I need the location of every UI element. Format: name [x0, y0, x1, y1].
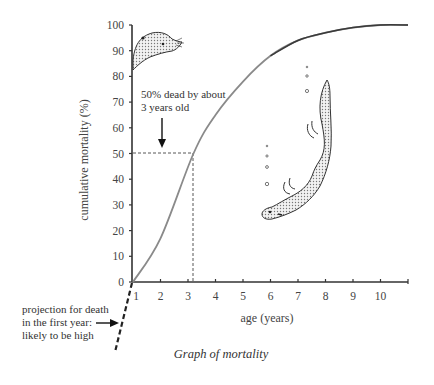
x-tick-label: 10 — [375, 290, 387, 302]
y-tick-label: 50 — [113, 148, 125, 160]
y-tick-label: 100 — [107, 19, 125, 31]
svg-text:50% dead by about: 50% dead by about — [141, 88, 226, 100]
y-tick-label: 60 — [113, 122, 125, 134]
y-tick-label: 80 — [113, 70, 125, 82]
x-tick-label: 2 — [158, 290, 164, 302]
y-tick-label: 90 — [113, 45, 125, 57]
otter-head-icon — [133, 32, 184, 70]
diving-otter-icon — [262, 80, 331, 219]
y-axis-title: cumulative mortality (%) — [77, 99, 91, 220]
x-tick-label: 7 — [295, 290, 301, 302]
arrow-down-icon — [158, 139, 166, 148]
x-tick-label: 1 — [133, 290, 139, 302]
svg-text:likely to be high: likely to be high — [22, 329, 94, 341]
y-tick-label: 0 — [118, 276, 124, 288]
y-tick-label: 20 — [113, 225, 125, 237]
y-tick-label: 70 — [113, 96, 125, 108]
projection-annotation: projection for death in the first year: … — [22, 303, 119, 341]
x-tick-label: 9 — [350, 290, 356, 302]
svg-text:projection for death: projection for death — [22, 303, 109, 315]
y-tick-label: 30 — [113, 199, 125, 211]
arrow-right-icon — [110, 319, 119, 327]
air-bubbles-icon — [265, 66, 308, 186]
mortality-chart: 0102030405060708090100 cumulative mortal… — [0, 0, 434, 385]
x-tick-label: 8 — [323, 290, 329, 302]
x-tick-label: 5 — [240, 290, 246, 302]
x-tick-label: 6 — [268, 290, 274, 302]
x-axis-title: age (years) — [241, 311, 294, 325]
mortality-curve-shading — [271, 25, 409, 56]
fifty-percent-guides — [133, 153, 193, 282]
y-tick-label: 10 — [113, 250, 125, 262]
x-tick-label: 4 — [213, 290, 219, 302]
svg-text:in the first year:: in the first year: — [22, 316, 92, 328]
x-tick-label: 3 — [185, 290, 191, 302]
chart-caption: Graph of mortality — [174, 347, 269, 361]
y-axis: 0102030405060708090100 cumulative mortal… — [77, 19, 132, 288]
svg-text:3 years old: 3 years old — [141, 101, 190, 113]
y-tick-label: 40 — [113, 173, 125, 185]
x-axis: 12345678910 age (years) — [132, 279, 408, 325]
first-year-projection — [115, 283, 132, 352]
